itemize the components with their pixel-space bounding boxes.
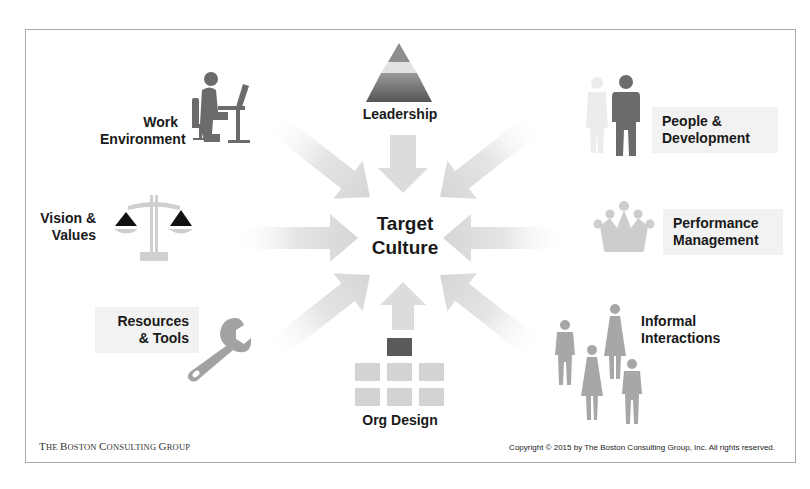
- label-vision-values: Vision & Values: [30, 210, 96, 244]
- center-target-culture: Target Culture: [355, 212, 455, 260]
- people-icon: [586, 75, 640, 156]
- center-line: Culture: [355, 236, 455, 260]
- pyramid-icon: [366, 43, 432, 102]
- label-performance-management: Performance Management: [663, 209, 783, 255]
- org-chart-icon: [355, 338, 444, 406]
- person-at-desk-icon: [192, 72, 250, 143]
- brand-part: T: [39, 440, 46, 452]
- copyright-notice: Copyright © 2015 by The Boston Consultin…: [509, 443, 775, 452]
- label-org-design: Org Design: [350, 412, 450, 429]
- label-line: & Tools: [105, 330, 189, 347]
- label-line: Interactions: [641, 330, 751, 347]
- label-line: Vision &: [30, 210, 96, 227]
- label-line: Resources: [105, 313, 189, 330]
- bcg-brand: THE BOSTON CONSULTING GROUP: [39, 440, 190, 452]
- arrow-from-vision-values: [238, 214, 358, 262]
- label-work-environment: Work Environment: [100, 114, 178, 148]
- scales-icon: [114, 195, 193, 261]
- label-line: Environment: [100, 131, 178, 148]
- brand-part: OSTON: [68, 442, 100, 452]
- group-people-icon: [555, 304, 642, 424]
- label-line: Management: [673, 232, 773, 249]
- brand-part: G: [159, 440, 167, 452]
- label-line: Leadership: [350, 106, 450, 123]
- label-leadership: Leadership: [350, 106, 450, 123]
- label-resources-tools: Resources & Tools: [95, 307, 199, 353]
- label-line: People &: [662, 113, 768, 130]
- brand-part: C: [99, 440, 107, 452]
- label-line: Performance: [673, 215, 773, 232]
- arrow-from-resources-tools: [261, 256, 385, 368]
- arrow-from-leadership: [378, 135, 428, 193]
- label-line: Values: [30, 227, 96, 244]
- arrow-from-org-design: [380, 282, 426, 330]
- center-line: Target: [355, 212, 455, 236]
- label-informal-interactions: Informal Interactions: [641, 313, 751, 347]
- brand-part: ROUP: [167, 442, 190, 452]
- brand-part: ONSULTING: [107, 442, 159, 452]
- label-line: Development: [662, 130, 768, 147]
- arrow-from-informal-interactions: [425, 256, 549, 368]
- label-line: Informal: [641, 313, 751, 330]
- label-line: Work: [100, 114, 178, 131]
- brand-part: HE: [46, 442, 60, 452]
- label-line: Org Design: [350, 412, 450, 429]
- brand-part: B: [60, 440, 68, 452]
- label-people-development: People & Development: [652, 107, 778, 153]
- crown-icon: [594, 201, 655, 252]
- arrow-from-performance-management: [443, 214, 563, 262]
